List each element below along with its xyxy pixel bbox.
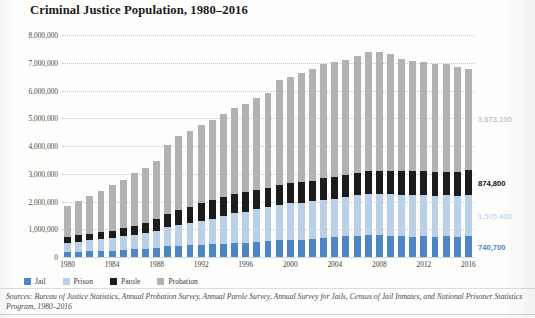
bar-segment-parole-1988 xyxy=(153,219,160,230)
bar-segment-prison-1999 xyxy=(276,205,283,241)
bar-segment-probation-2005 xyxy=(342,60,349,175)
bar-segment-probation-2008 xyxy=(376,52,383,170)
figure-criminal-justice-population: Criminal Justice Population, 1980–2016 0… xyxy=(0,0,535,318)
bar-segment-parole-2010 xyxy=(398,171,405,194)
bar-segment-probation-1990 xyxy=(175,136,182,210)
bar-segment-parole-2015 xyxy=(454,172,461,196)
bar-1983 xyxy=(98,191,105,257)
bar-1989 xyxy=(164,145,171,257)
bar-2002 xyxy=(309,69,316,257)
legend-item-prison: Prison xyxy=(63,277,93,286)
bar-segment-prison-1992 xyxy=(198,221,205,245)
bar-segment-probation-2003 xyxy=(320,64,327,178)
bar-segment-parole-2014 xyxy=(443,172,450,196)
bar-segment-prison-1982 xyxy=(86,240,93,251)
bar-segment-parole-1991 xyxy=(187,207,194,223)
bar-segment-prison-2001 xyxy=(298,203,305,240)
bar-segment-parole-1996 xyxy=(242,192,249,212)
bar-segment-prison-1997 xyxy=(253,209,260,242)
bar-segment-parole-1986 xyxy=(131,226,138,235)
bar-segment-probation-2006 xyxy=(354,56,361,173)
bar-segment-jail-1980 xyxy=(64,252,71,257)
bar-segment-prison-1994 xyxy=(220,216,227,243)
bar-segment-jail-2012 xyxy=(420,236,427,257)
bar-segment-jail-2004 xyxy=(331,237,338,257)
bar-segment-prison-1990 xyxy=(175,225,182,246)
bar-segment-parole-2000 xyxy=(287,183,294,203)
bar-segment-parole-1997 xyxy=(253,190,260,209)
y-axis-tick-label: 5,000,000 xyxy=(28,114,58,123)
bar-segment-parole-1995 xyxy=(231,194,238,213)
bar-segment-probation-1987 xyxy=(142,168,149,224)
bar-segment-probation-2010 xyxy=(398,59,405,172)
bar-segment-prison-2007 xyxy=(365,194,372,235)
bar-segment-jail-1983 xyxy=(98,251,105,257)
bar-segment-parole-2004 xyxy=(331,177,338,199)
callout-prison: 1,505,400 xyxy=(478,211,512,220)
sources-note: Sources: Bureau of Justice Statistics, A… xyxy=(6,292,530,312)
bar-segment-jail-2009 xyxy=(387,236,394,257)
legend-swatch-jail xyxy=(24,278,31,285)
bar-segment-probation-2013 xyxy=(432,64,439,173)
bar-1991 xyxy=(187,131,194,257)
bar-segment-jail-1992 xyxy=(198,245,205,257)
y-axis-tick-label: 8,000,000 xyxy=(28,31,58,40)
bar-segment-probation-1986 xyxy=(131,173,138,225)
bar-segment-probation-2002 xyxy=(309,69,316,181)
legend-label-jail: Jail xyxy=(35,277,46,286)
bar-segment-probation-1980 xyxy=(64,206,71,237)
bar-2014 xyxy=(443,64,450,257)
bar-segment-prison-1984 xyxy=(109,238,116,250)
bar-1982 xyxy=(86,196,93,257)
bar-segment-jail-2011 xyxy=(409,237,416,257)
bar-segment-probation-1985 xyxy=(120,180,127,228)
legend-swatch-probation xyxy=(157,278,164,285)
bar-segment-probation-1981 xyxy=(75,201,82,235)
x-axis-tick-label: 2000 xyxy=(283,260,298,269)
bar-2006 xyxy=(354,56,361,257)
bar-segment-prison-2006 xyxy=(354,195,361,236)
bar-1997 xyxy=(253,98,260,257)
gridline xyxy=(62,257,474,258)
bar-2016 xyxy=(465,68,472,257)
bar-segment-probation-1996 xyxy=(242,104,249,192)
bar-segment-jail-1993 xyxy=(209,244,216,257)
bar-segment-parole-2002 xyxy=(309,181,316,202)
bar-segment-probation-2012 xyxy=(420,62,427,171)
bar-segment-prison-2016 xyxy=(465,195,472,237)
bar-segment-prison-2013 xyxy=(432,196,439,237)
bar-segment-parole-1998 xyxy=(265,188,272,207)
chart-legend: JailPrisonParoleProbation xyxy=(24,277,198,286)
bar-segment-parole-2013 xyxy=(432,172,439,196)
bar-1994 xyxy=(220,114,227,257)
legend-swatch-parole xyxy=(110,278,117,285)
bar-segment-prison-1991 xyxy=(187,223,194,245)
bar-segment-parole-2007 xyxy=(365,171,372,194)
bar-segment-parole-1993 xyxy=(209,200,216,219)
bar-segment-jail-2015 xyxy=(454,237,461,257)
bar-1988 xyxy=(153,161,160,257)
bar-segment-probation-2014 xyxy=(443,64,450,171)
x-axis-tick-label: 1980 xyxy=(60,260,75,269)
bar-segment-jail-2013 xyxy=(432,237,439,257)
bar-segment-jail-1982 xyxy=(86,251,93,257)
bar-segment-prison-1998 xyxy=(265,207,272,241)
y-axis-tick-label: 4,000,000 xyxy=(28,142,58,151)
bar-2007 xyxy=(365,52,372,257)
bar-segment-jail-2001 xyxy=(298,240,305,257)
bar-1987 xyxy=(142,168,149,257)
bar-1992 xyxy=(198,125,205,257)
bar-segment-prison-2000 xyxy=(287,203,294,240)
bar-segment-prison-2002 xyxy=(309,201,316,239)
bar-segment-probation-1988 xyxy=(153,161,160,219)
bar-segment-jail-1986 xyxy=(131,249,138,257)
bar-segment-prison-2004 xyxy=(331,199,338,238)
x-axis-tick-label: 1988 xyxy=(149,260,164,269)
x-axis-tick-label: 1992 xyxy=(194,260,209,269)
bar-segment-jail-2016 xyxy=(465,236,472,257)
legend-item-jail: Jail xyxy=(24,277,46,286)
bar-segment-probation-2009 xyxy=(387,54,394,171)
bar-segment-prison-1993 xyxy=(209,219,216,244)
bar-segment-jail-1985 xyxy=(120,250,127,257)
bar-segment-jail-2006 xyxy=(354,236,361,257)
